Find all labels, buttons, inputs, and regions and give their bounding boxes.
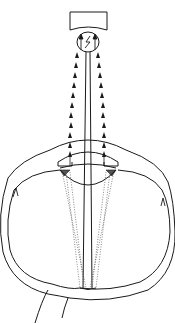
eye-light-path-diagram [0,0,175,323]
crystalline-lens [60,164,116,185]
iris [14,162,162,190]
light-rays-left [68,52,79,165]
iris-shading [60,170,116,176]
dotted-rays [63,172,113,288]
eyeball-wall [0,178,175,300]
wall-arrows [13,188,165,206]
central-axis [83,52,92,288]
light-rays-right [96,52,106,165]
instrument-head [70,12,107,30]
